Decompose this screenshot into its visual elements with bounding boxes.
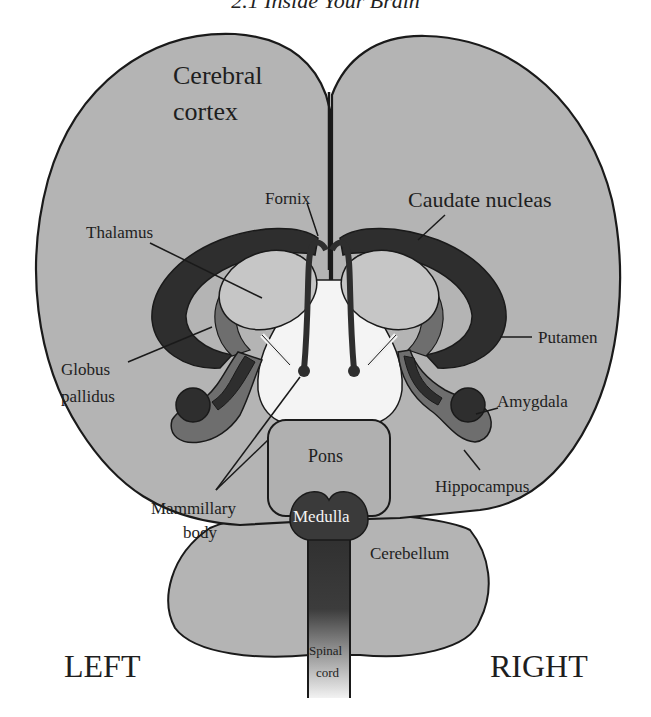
label-spinal-cord-2: cord [316,665,340,680]
label-cerebral-cortex-1: Cerebral [173,61,263,90]
right-amygdala [451,388,485,422]
left-amygdala [176,388,210,422]
label-globus-pallidus-1: Globus [61,360,110,379]
label-cerebral-cortex-2: cortex [173,97,238,126]
label-hippocampus: Hippocampus [435,477,529,496]
label-mammillary-body-1: Mammillary [151,499,236,518]
label-mammillary-body-2: body [183,523,218,542]
label-amygdala: Amygdala [497,392,568,411]
right-mammillary-body [348,365,360,377]
label-putamen: Putamen [538,328,598,347]
label-spinal-cord-1: Spinal [309,643,343,658]
label-thalamus: Thalamus [86,223,153,242]
left-mammillary-body [298,365,310,377]
label-fornix: Fornix [265,189,311,208]
label-pons: Pons [308,446,343,466]
label-caudate-nucleus: Caudate nucleas [408,187,552,212]
brain-diagram: Cerebral cortex Fornix Caudate nucleas T… [0,0,651,717]
label-medulla: Medulla [293,507,350,526]
label-globus-pallidus-2: pallidus [61,387,115,406]
label-right: RIGHT [490,648,588,684]
label-cerebellum: Cerebellum [370,544,449,563]
label-left: LEFT [64,648,141,684]
